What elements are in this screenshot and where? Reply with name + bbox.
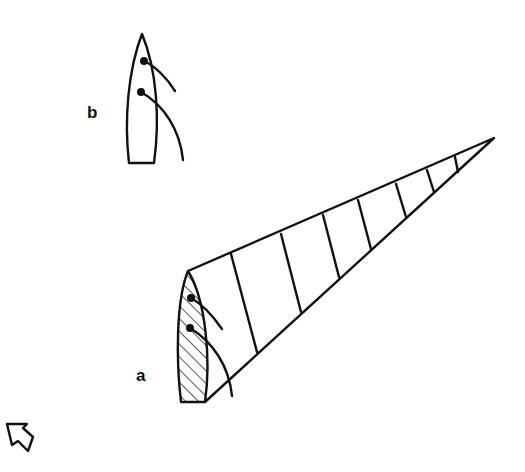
- wind-shadow-outline: [188, 138, 494, 402]
- label-boat-b: b: [87, 104, 97, 121]
- boat-b-sail-front: [144, 61, 175, 91]
- boat-b: [127, 34, 183, 163]
- shadow-divider-7: [455, 157, 458, 172]
- sailing-diagram: [0, 0, 525, 472]
- boat-a: [170, 265, 232, 410]
- shadow-divider-3: [323, 215, 339, 277]
- boat-b-sail-rear: [141, 92, 183, 160]
- shadow-divider-4: [358, 200, 371, 249]
- label-boat-a: a: [136, 367, 145, 384]
- shadow-divider-6: [427, 170, 434, 192]
- shadow-divider-1: [231, 254, 257, 352]
- wind-shadow: [188, 138, 494, 402]
- shadow-divider-2: [281, 234, 301, 312]
- wind-arrow-icon: [7, 424, 33, 451]
- shadow-divider-5: [396, 184, 406, 217]
